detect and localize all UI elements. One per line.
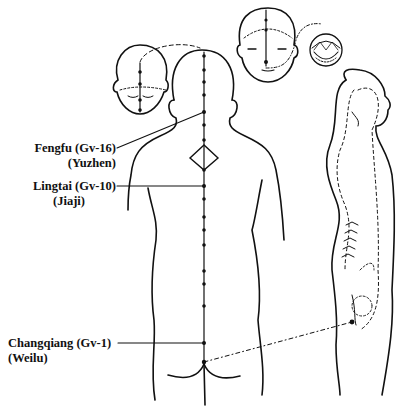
label-changqiang: Changqiang (Gv-1) (Weilu) <box>8 336 111 366</box>
face-front <box>237 8 322 82</box>
body-side-profile <box>327 69 395 395</box>
point-name: Fengfu (Gv-16) <box>34 141 116 156</box>
body-back-outline <box>128 50 284 405</box>
point-alt-name: (Jiaji) <box>33 194 116 209</box>
small-head-back <box>113 45 168 114</box>
mouth-open <box>310 34 342 66</box>
point-alt-name: (Weilu) <box>8 351 111 366</box>
label-lingtai: Lingtai (Gv-10) (Jiaji) <box>33 179 116 209</box>
point-name: Lingtai (Gv-10) <box>33 179 116 194</box>
point-alt-name: (Yuzhen) <box>34 156 116 171</box>
point-name: Changqiang (Gv-1) <box>8 336 111 351</box>
label-fengfu: Fengfu (Gv-16) (Yuzhen) <box>34 141 116 171</box>
